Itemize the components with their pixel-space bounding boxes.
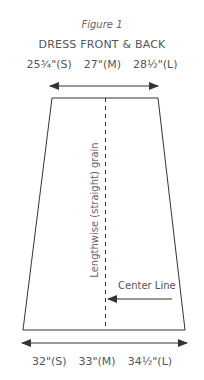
bottom-measurement-medium: 33"(M) [79,355,116,368]
pattern-piece-outline [23,98,185,330]
bottom-measurement-small: 32"(S) [32,355,67,368]
bottom-measurements: 32"(S) 33"(M) 34½"(L) [0,355,204,368]
pattern-diagram [0,0,204,380]
grain-label: Lengthwise (straight) grain [89,142,100,277]
bottom-measurement-large: 34½"(L) [128,355,172,368]
center-line-label: Center Line [118,280,176,291]
